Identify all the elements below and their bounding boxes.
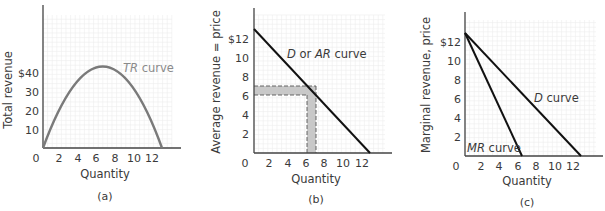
panel-c-x-axis-label: Quantity [502,174,552,188]
panel-b-x-axis-label: Quantity [291,172,341,186]
panel-a-total-revenue-chart: TR curve 10 20 30 $40 0 2 4 6 8 10 12 Qu… [1,5,181,203]
x-tick: 0 [242,157,249,170]
x-tick: 6 [93,152,100,165]
x-tick: 0 [453,160,460,173]
panel-b-x-ticks: 0 2 4 6 8 10 12 [242,157,370,170]
x-tick: 2 [56,152,63,165]
panel-c-y-ticks: 2 4 6 8 10 $12 [440,36,461,144]
panel-b-average-revenue-chart: D or AR curve 2 4 6 8 10 $12 0 2 4 6 8 1… [209,8,392,206]
x-tick: 12 [566,160,580,173]
x-tick: 4 [75,152,82,165]
y-tick: 10 [447,55,461,68]
panel-c-caption: (c) [520,196,535,209]
panel-c-marginal-revenue-chart: D curve MR curve 2 4 6 8 10 $12 0 2 4 6 … [419,12,603,209]
y-tick: 4 [454,112,461,125]
x-tick: 8 [533,160,540,173]
y-tick: 10 [235,52,249,65]
x-tick: 10 [548,160,562,173]
panel-c-x-ticks: 0 2 4 6 8 10 12 [453,160,581,173]
y-tick: 8 [242,71,249,84]
x-tick: 8 [112,152,119,165]
x-tick: 2 [478,160,485,173]
panel-a-y-ticks: 10 20 30 $40 [18,67,39,137]
panel-b-caption: (b) [308,193,324,206]
x-tick: 12 [355,157,369,170]
x-tick: 4 [285,157,292,170]
panel-b-shaded-vertical-band [307,95,316,153]
panel-a-y-axis-label: Total revenue [1,51,15,130]
panel-a-caption: (a) [97,190,112,203]
panel-c-y-axis-label: Marginal revenue, price [419,17,433,153]
x-tick: 4 [496,160,503,173]
x-tick: 12 [145,152,159,165]
panel-c-mr-curve-label: MR curve [467,141,521,155]
panel-c-d-curve-label: D curve [534,91,579,105]
panel-a-tr-curve-label: TR curve [123,61,174,75]
x-tick: 0 [33,152,40,165]
panel-b-y-axis-label: Average revenue = price [209,10,223,154]
x-tick: 10 [127,152,141,165]
y-tick: 2 [454,131,461,144]
panel-a-x-ticks: 0 2 4 6 8 10 12 [33,152,160,165]
panel-b-shaded-horizontal-band [254,86,316,95]
y-tick: 4 [242,109,249,122]
panel-a-grid [43,15,172,148]
panel-b-curve-label: D or AR curve [287,47,367,61]
y-tick: 30 [25,86,39,99]
x-tick: 6 [303,157,310,170]
y-tick: $40 [18,67,39,80]
x-tick: 6 [515,160,522,173]
panel-a-x-axis-label: Quantity [80,167,130,181]
panel-c-grid [465,20,596,156]
panel-b-grid [254,15,385,153]
figure-canvas: TR curve 10 20 30 $40 0 2 4 6 8 10 12 Qu… [0,0,605,211]
y-tick: 20 [25,105,39,118]
y-tick: $12 [228,33,249,46]
y-tick: 2 [242,128,249,141]
panel-b-y-ticks: 2 4 6 8 10 $12 [228,33,249,141]
y-tick: $12 [440,36,461,49]
x-tick: 10 [336,157,350,170]
y-tick: 8 [454,74,461,87]
x-tick: 2 [266,157,273,170]
y-tick: 6 [242,90,249,103]
y-tick: 6 [454,93,461,106]
y-tick: 10 [25,124,39,137]
x-tick: 8 [321,157,328,170]
